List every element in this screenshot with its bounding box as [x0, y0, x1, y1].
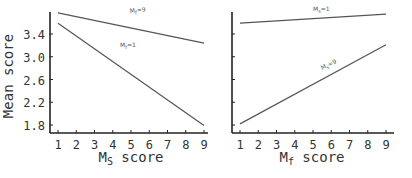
x-tick-label: 2: [73, 138, 80, 152]
left-y-axis-title: Mean score: [0, 34, 16, 118]
x-tick-label: 8: [182, 138, 189, 152]
x-tick-label: 7: [164, 138, 171, 152]
right-panel: 123456789 Mf score Ms=1Ms=9: [232, 5, 394, 167]
series-label: Ms=9: [319, 57, 338, 72]
y-tick-label: 3.0: [23, 51, 45, 65]
series-line: [240, 45, 386, 124]
x-tick-label: 2: [255, 138, 262, 152]
left-panel: 3.43.02.62.21.8 123456789 Mean score MS …: [0, 5, 208, 167]
x-tick-label: 8: [364, 138, 371, 152]
series-line: [240, 14, 386, 23]
x-tick-label: 1: [236, 138, 243, 152]
series-label: Ms=1: [313, 5, 330, 14]
x-tick-label: 9: [200, 138, 207, 152]
y-tick-label: 2.2: [23, 96, 45, 110]
x-tick-label: 3: [91, 138, 98, 152]
right-x-axis-title: Mf score: [279, 149, 344, 167]
series-label: Mf=9: [129, 5, 146, 16]
x-tick-label: 7: [346, 138, 353, 152]
figure: 3.43.02.62.21.8 123456789 Mean score MS …: [0, 0, 412, 178]
y-tick-label: 2.6: [23, 74, 45, 88]
series-label: Mf=1: [120, 41, 136, 50]
y-tick-label: 3.4: [23, 28, 45, 42]
x-tick-label: 1: [54, 138, 61, 152]
y-tick-label: 1.8: [23, 119, 45, 133]
x-tick-label: 9: [382, 138, 389, 152]
